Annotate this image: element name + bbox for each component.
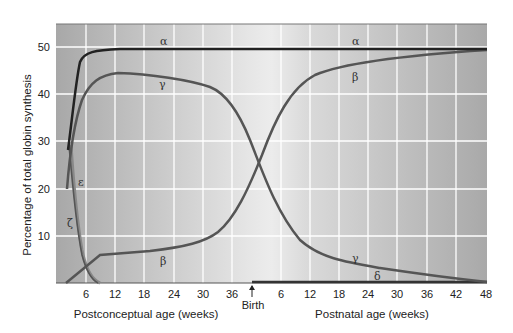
x-tick-prenatal: 36 [226, 288, 238, 300]
y-tick: 20 [38, 183, 50, 195]
plot-area [56, 24, 487, 283]
x-tick-postnatal: 6 [278, 288, 284, 300]
y-tick: 30 [38, 135, 50, 147]
epsilon-label: ε [78, 176, 84, 189]
x-tick-prenatal: 18 [138, 288, 150, 300]
y-tick: 40 [38, 88, 50, 100]
x-tick-prenatal: 12 [109, 288, 121, 300]
gamma-label-top: γ [159, 78, 166, 91]
x-tick-postnatal: 42 [450, 288, 462, 300]
x-tick-postnatal: 18 [333, 288, 345, 300]
y-tick: 50 [38, 41, 50, 53]
x-axis-label-prenatal: Postconceptual age (weeks) [74, 308, 219, 320]
birth-marker [249, 285, 255, 297]
birth-label: Birth [242, 299, 265, 311]
x-tick-postnatal: 30 [391, 288, 403, 300]
y-axis-label: Percentage of total globin synthesis [21, 74, 33, 256]
delta-label: δ [374, 270, 381, 283]
x-tick-postnatal: 36 [421, 288, 433, 300]
x-tick-prenatal: 30 [197, 288, 209, 300]
beta-label-bottom: β [160, 255, 166, 268]
x-tick-prenatal: 6 [83, 288, 89, 300]
alpha-label-right: α [352, 35, 360, 48]
alpha-label-left: α [160, 35, 168, 48]
x-axis-label-postnatal: Postnatal age (weeks) [315, 308, 429, 320]
beta-label-top: β [352, 71, 358, 84]
zeta-label: ζ [67, 217, 73, 230]
x-tick-prenatal: 24 [168, 288, 180, 300]
x-tick-postnatal: 12 [304, 288, 316, 300]
y-tick: 10 [38, 230, 50, 242]
arrow-up-icon [249, 285, 255, 290]
x-tick-postnatal: 48 [480, 288, 492, 300]
globin-synthesis-chart: α α γ β ε ζ β γ δ 50 40 30 20 10 Percent… [0, 0, 513, 333]
x-tick-postnatal: 24 [362, 288, 374, 300]
gamma-label-bottom: γ [352, 252, 359, 265]
